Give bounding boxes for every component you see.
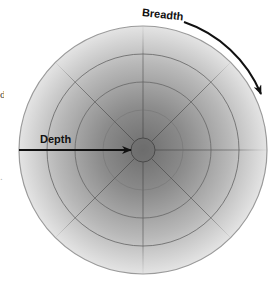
depth-breadth-diagram: Depth Breadth (0, 0, 278, 287)
breadth-label: Breadth (141, 6, 184, 22)
depth-label: Depth (40, 133, 71, 145)
core-circle (131, 138, 155, 162)
